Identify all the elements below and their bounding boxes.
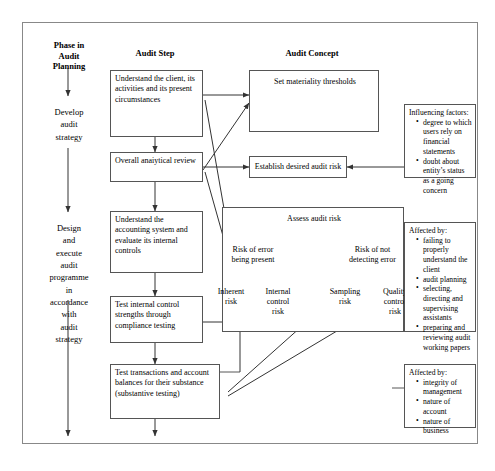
arrow-substantive-to-qcrisk bbox=[228, 322, 352, 396]
concept-risk-of-error: Risk of error being present bbox=[222, 245, 284, 265]
phase-develop-strategy: Develop audit strategy bbox=[38, 106, 100, 143]
risk-not-detecting-line1: Risk of not bbox=[340, 245, 405, 255]
note-influencing-item-2: doubt about entity’s status as a going c… bbox=[417, 157, 472, 196]
step-box-analytical-review[interactable]: Overall anaiytical review bbox=[110, 152, 203, 182]
header-audit-concept: Audit Concept bbox=[262, 48, 362, 59]
concept-inherent-risk: Inherent risk bbox=[210, 287, 252, 307]
sampling-risk-line1: Sampling bbox=[322, 287, 368, 297]
phase-design-line9: audit bbox=[36, 321, 102, 333]
internal-control-risk-line2: control bbox=[255, 297, 301, 307]
step-box-test-transactions[interactable]: Test transactions and account balances f… bbox=[110, 364, 220, 419]
phase-design-execute: Design and execute audit programme in ac… bbox=[36, 222, 102, 345]
header-phase-line3: Planning bbox=[38, 61, 100, 72]
note-influencing-item-1: degree to which users rely on financial … bbox=[417, 118, 472, 157]
phase-design-line1: Design bbox=[36, 222, 102, 234]
phase-design-line8: with bbox=[36, 308, 102, 320]
concept-group-materiality[interactable]: Set materiality thresholds Planning mate… bbox=[249, 70, 379, 132]
phase-develop-line1: Develop bbox=[38, 106, 100, 118]
note-affected-detection-item-2: audit planning bbox=[417, 275, 472, 285]
note-affected-inherent-item-2: nature of account bbox=[417, 397, 472, 416]
note-affected-detection-item-1: failing to properly understand the clien… bbox=[417, 236, 472, 275]
risk-of-error-line2: being present bbox=[222, 255, 284, 265]
note-affected-inherent-item-1: integrity of management bbox=[417, 378, 472, 397]
concept-risk-not-detecting: Risk of not detecting error bbox=[340, 245, 405, 265]
header-phase-line1: Phase in bbox=[38, 40, 100, 51]
note-affected-inherent-item-3: nature of business bbox=[417, 417, 472, 436]
note-affected-by-inherent[interactable]: Affected by: integrity of management nat… bbox=[404, 364, 476, 428]
concept-internal-control-risk: Internal control risk bbox=[255, 287, 301, 317]
step-box-internal-control[interactable]: Test internal control strengths through … bbox=[110, 296, 203, 343]
header-phase: Phase in Audit Planning bbox=[38, 40, 100, 72]
note-influencing-factors[interactable]: Influencing factors: degree to which use… bbox=[404, 104, 476, 178]
note-affected-detection-list: failing to properly understand the clien… bbox=[409, 236, 472, 353]
phase-design-line6: in bbox=[36, 284, 102, 296]
header-audit-step: Audit Step bbox=[115, 48, 195, 59]
step-box-understand-client[interactable]: Understand the client, its activities an… bbox=[110, 70, 203, 137]
inherent-risk-line1: Inherent bbox=[210, 287, 252, 297]
inherent-risk-line2: risk bbox=[210, 297, 252, 307]
phase-design-line3: execute bbox=[36, 247, 102, 259]
concept-set-materiality-thresholds: Set materiality thresholds bbox=[250, 77, 380, 87]
concept-assess-audit-risk: Assess audit risk bbox=[223, 214, 405, 224]
note-affected-inherent-list: integrity of management nature of accoun… bbox=[409, 378, 472, 436]
header-phase-line2: Audit bbox=[38, 51, 100, 62]
note-affected-detection-item-3: selecting, directing and supervising ass… bbox=[417, 284, 472, 323]
internal-control-risk-line3: risk bbox=[255, 307, 301, 317]
note-affected-by-detection[interactable]: Affected by: failing to properly underst… bbox=[404, 222, 476, 332]
risk-of-error-line1: Risk of error bbox=[222, 245, 284, 255]
internal-control-risk-line1: Internal bbox=[255, 287, 301, 297]
phase-design-line5: programme bbox=[36, 271, 102, 283]
risk-not-detecting-line2: detecting error bbox=[340, 255, 405, 265]
note-influencing-factors-list: degree to which users rely on financial … bbox=[409, 118, 472, 196]
phase-develop-line3: strategy bbox=[38, 131, 100, 143]
step-box-accounting-system[interactable]: Understand the accounting system and eva… bbox=[110, 211, 203, 273]
concept-sampling-risk: Sampling risk bbox=[322, 287, 368, 307]
sampling-risk-line2: risk bbox=[322, 297, 368, 307]
phase-design-line7: accordance bbox=[36, 296, 102, 308]
phase-design-line10: strategy bbox=[36, 333, 102, 345]
concept-establish-desired-audit-risk[interactable]: Establish desired audit risk bbox=[249, 156, 347, 178]
note-affected-detection-item-4: preparing and reviewing audit working pa… bbox=[417, 323, 472, 352]
diagram-canvas: Phase in Audit Planning Audit Step Audit… bbox=[0, 0, 495, 471]
phase-design-line2: and bbox=[36, 234, 102, 246]
phase-design-line4: audit bbox=[36, 259, 102, 271]
arrow-review-to-materiality-diag bbox=[203, 103, 249, 170]
phase-develop-line2: audit bbox=[38, 118, 100, 130]
